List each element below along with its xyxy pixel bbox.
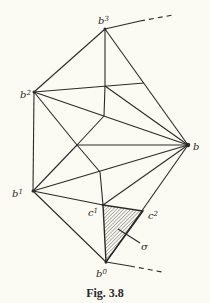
label-b1: b1: [12, 188, 23, 199]
triangulation-diagram: b3 b2 b b1 c1 c2 b0 σ Fig. 3.8: [0, 0, 210, 303]
edges: [33, 15, 188, 272]
label-c2: c2: [148, 210, 159, 221]
label-b2: b2: [20, 89, 31, 100]
figure-caption: Fig. 3.8: [86, 286, 124, 300]
label-sigma: σ: [141, 241, 149, 252]
label-b0: b0: [96, 268, 107, 279]
label-c1: c1: [88, 207, 98, 218]
label-b3: b3: [98, 15, 109, 26]
label-b: b: [193, 141, 199, 152]
simplex-sigma: [103, 205, 143, 262]
